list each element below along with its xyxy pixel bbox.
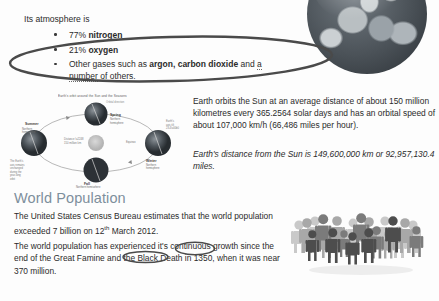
paragraph-census: The United States Census Bureau estimate… bbox=[14, 210, 286, 238]
document-page: Its atmosphere is 77% nitrogen 21% oxyge… bbox=[0, 0, 439, 301]
page-heading: World Population bbox=[14, 190, 126, 206]
svg-text:unchanged: unchanged bbox=[10, 166, 23, 170]
atmosphere-bullet-list: 77% nitrogen 21% oxygen Other gases such… bbox=[52, 30, 282, 86]
intro-line: Its atmosphere is bbox=[24, 14, 89, 26]
svg-text:hemisphere: hemisphere bbox=[110, 121, 124, 125]
census-text-part2: March 2012. bbox=[109, 226, 158, 236]
list-item: 77% nitrogen bbox=[52, 30, 282, 41]
paragraph-orbit: Earth orbits the Sun at an average dista… bbox=[193, 96, 436, 131]
svg-text:The Earth's: The Earth's bbox=[10, 159, 24, 163]
crowd-people-image bbox=[288, 204, 434, 288]
svg-text:Spring: Spring bbox=[110, 113, 121, 117]
list-item: 21% oxygen bbox=[52, 45, 282, 56]
svg-text:Equinox: Equinox bbox=[126, 140, 136, 144]
svg-text:hemisphere: hemisphere bbox=[146, 166, 160, 170]
paragraph-distance: Earth's distance from the Sun is 149,600… bbox=[193, 149, 436, 173]
orbit-diagram-image: Summer Northern hemisphere Spring Northe… bbox=[6, 96, 186, 188]
paragraph-growth: The world population has experienced it'… bbox=[14, 240, 286, 277]
svg-text:Winter: Winter bbox=[146, 159, 157, 163]
bullet-text-conjunction: and bbox=[238, 59, 257, 69]
bullet-text-plain: 77% bbox=[69, 30, 88, 40]
svg-text:Distance \u2248: Distance \u2248 bbox=[64, 137, 84, 141]
svg-text:Summer: Summer bbox=[25, 122, 39, 126]
svg-text:during the: during the bbox=[10, 170, 22, 174]
bullet-dot-icon bbox=[54, 48, 57, 51]
svg-text:Orbital direction: Orbital direction bbox=[106, 100, 125, 104]
svg-text:orbit: orbit bbox=[10, 177, 15, 181]
svg-text:Earth's: Earth's bbox=[166, 119, 175, 123]
svg-text:23.4\u00b0: 23.4\u00b0 bbox=[166, 126, 180, 130]
bullet-text-bold: oxygen bbox=[88, 45, 118, 55]
bullet-text-bold: nitrogen bbox=[88, 30, 122, 40]
svg-text:axis remains: axis remains bbox=[10, 163, 25, 167]
earth-photo-image bbox=[297, 0, 439, 92]
bullet-dot-icon bbox=[54, 63, 57, 66]
bullet-text-plain: Other gases such as bbox=[69, 59, 149, 69]
bullet-text-plain: 21% bbox=[69, 45, 88, 55]
bullet-dot-icon bbox=[54, 33, 57, 36]
svg-text:Northern hemisphere: Northern hemisphere bbox=[76, 185, 101, 188]
bullet-text-bold: argon, carbon dioxide bbox=[149, 59, 238, 69]
svg-text:hemisphere: hemisphere bbox=[22, 130, 36, 134]
svg-text:150 million km: 150 million km bbox=[64, 141, 82, 145]
list-item: Other gases such as argon, carbon dioxid… bbox=[52, 59, 282, 82]
svg-text:year-long: year-long bbox=[10, 173, 21, 177]
bullet-text-tail: of others. bbox=[100, 71, 135, 81]
svg-text:axis tilt: axis tilt bbox=[166, 123, 174, 127]
